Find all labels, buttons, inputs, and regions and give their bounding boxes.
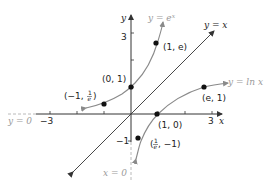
- tick-label-y-3: 3: [121, 32, 127, 42]
- x-axis-label: x: [219, 116, 224, 126]
- svg-text:(−1,: (−1,: [64, 91, 84, 101]
- point-label-neg1-inv-e: (−1, 1 e ): [64, 89, 97, 102]
- y-axis-label: y: [120, 13, 127, 23]
- point-e-1: [201, 84, 206, 89]
- tick-label-x-neg3: −3: [40, 116, 53, 126]
- exp-curve-label: y = ex: [147, 12, 176, 23]
- point-label-inv-e-neg1: ( 1 e , −1): [150, 137, 181, 150]
- point-label-0-1: (0, 1): [102, 74, 126, 84]
- identity-line: [73, 31, 214, 172]
- tick-label-x-3: 3: [208, 116, 214, 126]
- svg-text:, −1): , −1): [158, 139, 181, 149]
- svg-text:): ): [93, 91, 97, 101]
- point-label-1-e: (1, e): [163, 42, 187, 52]
- asymptote-y0-label: y = 0: [7, 116, 32, 126]
- point-1-e: [153, 40, 158, 45]
- tick-label-y-neg1: −1: [116, 136, 129, 146]
- point-inv-e-neg1: [135, 135, 140, 140]
- asymptote-x0-label: x = 0: [103, 168, 127, 178]
- point-neg1-inv-e: [101, 101, 106, 106]
- point-label-1-0: (1, 0): [158, 120, 182, 130]
- ln-curve-label: y = ln x: [227, 77, 263, 87]
- svg-text:e: e: [88, 95, 92, 102]
- point-1-0: [154, 111, 159, 116]
- point-0-1: [128, 84, 133, 89]
- svg-text:e: e: [154, 143, 158, 150]
- identity-line-label: y = x: [203, 20, 227, 30]
- graph-canvas: y x 3 −3 3 −1 y = ex y = x y = ln x y = …: [0, 0, 264, 184]
- point-label-e-1: (e, 1): [202, 93, 226, 103]
